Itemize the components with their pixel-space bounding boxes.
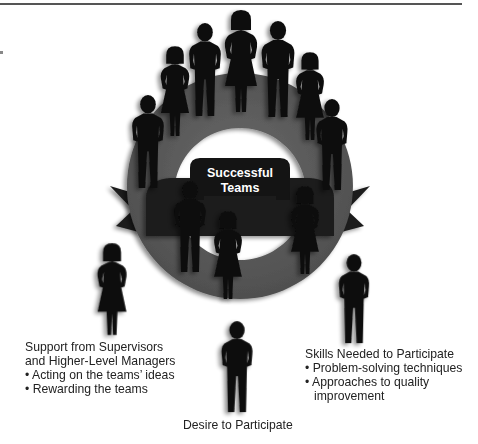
factor-desire-title: Desire to Participate bbox=[183, 418, 293, 432]
bullet-text: Acting on the teams’ ideas bbox=[32, 368, 175, 382]
man-figure-icon bbox=[222, 321, 253, 412]
bullet-text: Rewarding the teams bbox=[33, 382, 148, 396]
bullet-text: Approaches to quality bbox=[312, 375, 429, 389]
factor-support: Support from Supervisors and Higher-Leve… bbox=[25, 340, 175, 396]
bullet-text: Problem-solving techniques bbox=[313, 361, 463, 375]
factor-support-title-2: and Higher-Level Managers bbox=[25, 354, 175, 368]
center-label-line1: Successful bbox=[207, 166, 273, 180]
factor-desire: Desire to Participate bbox=[183, 418, 293, 432]
factor-skills: Skills Needed to Participate • Problem-s… bbox=[305, 347, 462, 403]
bullet-icon: • bbox=[25, 382, 29, 396]
factor-skills-bullet-1: • Problem-solving techniques bbox=[305, 361, 462, 375]
bullet-icon: • bbox=[305, 375, 309, 389]
factor-skills-bullet-2-cont: improvement bbox=[305, 389, 462, 403]
man-figure-icon bbox=[339, 254, 369, 343]
bullet-icon: • bbox=[305, 361, 309, 375]
factor-skills-title: Skills Needed to Participate bbox=[305, 347, 462, 361]
woman-figure-icon bbox=[97, 243, 126, 335]
factor-support-bullet-1: • Acting on the teams’ ideas bbox=[25, 368, 175, 382]
center-label-line2: Teams bbox=[221, 181, 260, 195]
factor-support-bullet-2: • Rewarding the teams bbox=[25, 382, 175, 396]
factor-skills-bullet-2: • Approaches to quality bbox=[305, 375, 462, 389]
factor-support-title-1: Support from Supervisors bbox=[25, 340, 175, 354]
bullet-icon: • bbox=[25, 368, 29, 382]
